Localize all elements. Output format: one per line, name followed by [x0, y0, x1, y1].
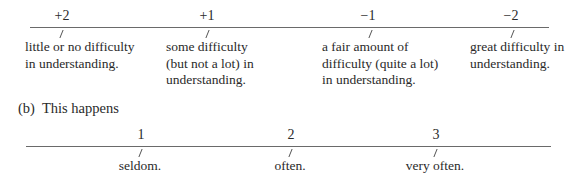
scale-b-value-3: 3	[433, 128, 440, 142]
scale-a-description-3: a fair amount of difficulty (quite a lot…	[322, 39, 438, 89]
scale-a-description-1: little or no difficulty in understanding…	[25, 39, 135, 72]
scale-a-tick-mark-4	[510, 30, 514, 38]
scale-b-description-3: very often.	[406, 159, 464, 173]
scale-b-description-1: seldom.	[119, 159, 161, 173]
scale-b-tick-mark-2	[288, 149, 292, 157]
scale-a-line	[30, 27, 549, 28]
scale-b-title: This happens	[42, 100, 119, 116]
scale-a-description-4: great difficulty in understanding.	[470, 39, 564, 72]
scale-b-tick-mark-3	[433, 149, 437, 157]
scale-a-tick-mark-2	[205, 30, 209, 38]
description-line: great difficulty in	[470, 39, 564, 56]
description-line: difficulty (quite a lot)	[322, 56, 438, 73]
scale-a-value-4: −2	[504, 9, 519, 23]
description-line: a fair amount of	[322, 39, 438, 56]
description-line: little or no difficulty	[25, 39, 135, 56]
scale-b-value-1: 1	[138, 128, 145, 142]
scale-a-description-2: some difficulty (but not a lot) in under…	[166, 39, 254, 89]
scale-a-tick-mark-1	[59, 30, 63, 38]
scale-a-value-3: −1	[361, 9, 376, 23]
description-line: some difficulty	[166, 39, 254, 56]
description-line: understanding.	[470, 56, 564, 73]
scale-a-tick-mark-3	[368, 30, 372, 38]
description-line: understanding.	[166, 72, 254, 89]
scale-b-tick-mark-1	[138, 149, 142, 157]
scale-a-value-2: +1	[200, 9, 215, 23]
scale-b-tag: (b)	[18, 100, 35, 116]
scale-b-value-2: 2	[288, 128, 295, 142]
description-line: (but not a lot) in	[166, 56, 254, 73]
scale-b-heading: (b)This happens	[18, 100, 119, 116]
description-line: in understanding.	[322, 72, 438, 89]
scale-b-description-2: often.	[274, 159, 305, 173]
scale-b-line	[26, 146, 551, 147]
scale-a-value-1: +2	[55, 9, 70, 23]
description-line: in understanding.	[25, 56, 135, 73]
